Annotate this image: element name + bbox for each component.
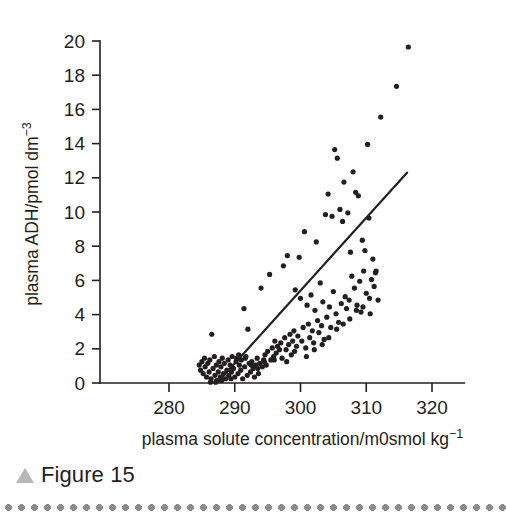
scatter-point — [354, 308, 359, 313]
scatter-point — [242, 364, 247, 369]
scatter-point — [301, 325, 306, 330]
y-axis-tick-label: 16 — [64, 99, 85, 120]
scatter-point — [372, 284, 377, 289]
scatter-point — [340, 219, 345, 224]
scatter-point — [243, 356, 248, 361]
scatter-point — [307, 335, 312, 340]
scatter-point — [265, 349, 270, 354]
scatter-point — [375, 297, 380, 302]
y-axis-tick-label: 20 — [64, 31, 85, 52]
scatter-point — [362, 248, 367, 253]
scatter-point — [272, 339, 277, 344]
scatter-point — [347, 316, 352, 321]
scatter-point — [226, 357, 231, 362]
scatter-point — [245, 327, 250, 332]
scatter-point — [351, 169, 356, 174]
x-axis-title: plasma solute concentration/m0smol kg−1 — [142, 427, 464, 449]
scatter-point — [286, 342, 291, 347]
scatter-point — [262, 359, 267, 364]
scatter-point — [256, 371, 261, 376]
scatter-point — [258, 285, 263, 290]
x-axis-tick-label: 320 — [416, 397, 448, 418]
y-axis-tick-label: 0 — [74, 373, 85, 394]
scatter-point — [285, 253, 290, 258]
scatter-point — [364, 291, 369, 296]
y-axis-title: plasma ADH/pmol dm−3 — [20, 122, 42, 306]
scatter-point — [231, 366, 236, 371]
scatter-point — [341, 179, 346, 184]
y-axis-tick-label: 10 — [64, 202, 85, 223]
scatter-plot: 02468101214161820280290300310320plasma A… — [0, 0, 506, 470]
scatter-point — [333, 311, 338, 316]
scatter-point — [345, 210, 350, 215]
scatter-point — [367, 296, 372, 301]
scatter-point — [255, 356, 260, 361]
scatter-point — [312, 347, 317, 352]
scatter-point — [272, 357, 277, 362]
scatter-point — [348, 250, 353, 255]
scatter-point — [284, 359, 289, 364]
scatter-point — [230, 354, 235, 359]
scatter-point — [278, 340, 283, 345]
scatter-point — [282, 335, 287, 340]
scatter-point — [352, 285, 357, 290]
scatter-point — [323, 212, 328, 217]
scatter-point — [366, 215, 371, 220]
scatter-point — [304, 354, 309, 359]
y-axis-tick-label: 6 — [74, 270, 85, 291]
scatter-point — [212, 354, 217, 359]
scatter-point — [252, 374, 257, 379]
scatter-point — [394, 84, 399, 89]
scatter-point — [331, 289, 336, 294]
scatter-point — [241, 306, 246, 311]
scatter-point — [354, 303, 359, 308]
scatter-point — [316, 330, 321, 335]
scatter-point — [294, 344, 299, 349]
scatter-point — [326, 335, 331, 340]
scatter-point — [224, 368, 229, 373]
scatter-point — [318, 280, 323, 285]
scatter-point — [315, 318, 320, 323]
scatter-point — [357, 279, 362, 284]
scatter-point — [237, 362, 242, 367]
scatter-point — [279, 356, 284, 361]
scatter-point — [220, 356, 225, 361]
scatter-point — [311, 340, 316, 345]
scatter-point — [343, 294, 348, 299]
scatter-point — [349, 274, 354, 279]
scatter-point — [368, 311, 373, 316]
scatter-point — [283, 347, 288, 352]
scatter-point — [339, 301, 344, 306]
scatter-point — [267, 272, 272, 277]
scatter-point — [209, 332, 214, 337]
figure-caption-label: Figure 15 — [41, 462, 135, 488]
scatter-point — [356, 193, 361, 198]
scatter-point — [306, 321, 311, 326]
y-axis-tick-label: 2 — [74, 338, 85, 359]
scatter-point — [370, 256, 375, 261]
scatter-point — [335, 156, 340, 161]
scatter-point — [358, 309, 363, 314]
scatter-point — [270, 345, 275, 350]
scatter-point — [216, 369, 221, 374]
x-axis-tick-label: 290 — [219, 397, 251, 418]
scatter-point — [322, 337, 327, 342]
scatter-point — [344, 306, 349, 311]
regression-line — [217, 173, 407, 383]
scatter-point — [290, 339, 295, 344]
scatter-point — [365, 142, 370, 147]
x-axis-tick-label: 300 — [285, 397, 317, 418]
y-axis-tick-label: 14 — [64, 133, 86, 154]
scatter-point — [312, 308, 317, 313]
scatter-point — [406, 44, 411, 49]
scatter-point — [291, 328, 296, 333]
scatter-point — [360, 238, 365, 243]
scatter-point — [302, 229, 307, 234]
scatter-point — [332, 147, 337, 152]
scatter-point — [320, 299, 325, 304]
scatter-point — [336, 320, 341, 325]
scatter-point — [303, 345, 308, 350]
scatter-point — [374, 268, 379, 273]
scatter-point — [238, 368, 243, 373]
figure-container: 02468101214161820280290300310320plasma A… — [0, 0, 506, 516]
